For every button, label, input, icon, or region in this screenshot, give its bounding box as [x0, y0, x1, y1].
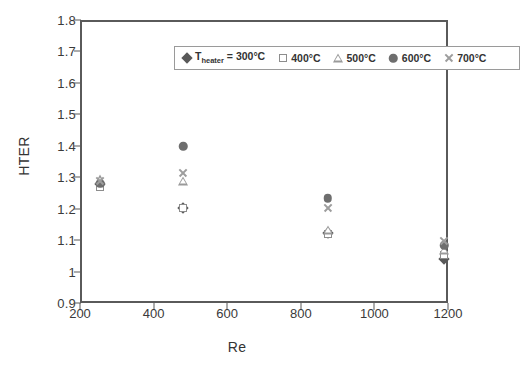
- cross-legend-icon: [443, 53, 454, 64]
- x-tick-label: 800: [290, 306, 312, 321]
- legend-label: 700°C: [457, 52, 486, 64]
- cross-marker-icon: [444, 53, 454, 63]
- x-tick-label: 1000: [360, 306, 389, 321]
- x-axis-title: Re: [0, 339, 474, 355]
- circle-marker-icon: [179, 142, 188, 151]
- cross-marker-icon: [95, 176, 105, 186]
- triangle-legend-icon: [333, 53, 344, 64]
- plot-area: Theater = 300°C400°C500°C600°C700°C: [80, 20, 448, 303]
- legend-entry-400C[interactable]: 400°C: [277, 52, 320, 64]
- data-point: [95, 175, 106, 186]
- legend-label: Theater = 300°C: [195, 50, 265, 65]
- circle-legend-icon: [388, 53, 399, 64]
- legend-entry-300C[interactable]: Theater = 300°C: [181, 50, 265, 65]
- chart-legend: Theater = 300°C400°C500°C600°C700°C: [174, 46, 520, 70]
- legend-label: 500°C: [347, 52, 376, 64]
- x-tick-label: 1200: [434, 306, 463, 321]
- square-marker-icon: [179, 204, 187, 212]
- cross-marker-icon: [439, 236, 449, 246]
- diamond-marker-icon: [181, 52, 192, 63]
- cross-marker-icon: [323, 203, 333, 213]
- data-point: [439, 235, 450, 246]
- legend-label: 400°C: [291, 52, 320, 64]
- data-point: [178, 141, 189, 152]
- x-tick-label: 400: [143, 306, 165, 321]
- x-axis-ticklabels: 20040060080010001200: [80, 306, 448, 330]
- data-point: [322, 202, 333, 213]
- triangle-marker-icon: [323, 225, 333, 234]
- cross-marker-icon: [178, 168, 188, 178]
- y-axis-ticklabels: 0.911.11.21.31.41.51.61.71.8: [36, 20, 76, 303]
- data-point: [178, 167, 189, 178]
- y-axis-title: HTER: [16, 116, 32, 196]
- triangle-marker-icon: [333, 54, 343, 63]
- legend-entry-500C[interactable]: 500°C: [333, 52, 376, 64]
- x-tick-label: 600: [216, 306, 238, 321]
- legend-entry-700C[interactable]: 700°C: [443, 52, 486, 64]
- legend-entry-600C[interactable]: 600°C: [388, 52, 431, 64]
- square-legend-icon: [277, 53, 288, 64]
- data-point: [178, 203, 189, 214]
- circle-marker-icon: [389, 54, 398, 63]
- diamond-legend-icon: [181, 53, 192, 64]
- legend-label: 600°C: [402, 52, 431, 64]
- x-tick-label: 200: [69, 306, 91, 321]
- data-point: [322, 224, 333, 235]
- square-marker-icon: [279, 54, 287, 62]
